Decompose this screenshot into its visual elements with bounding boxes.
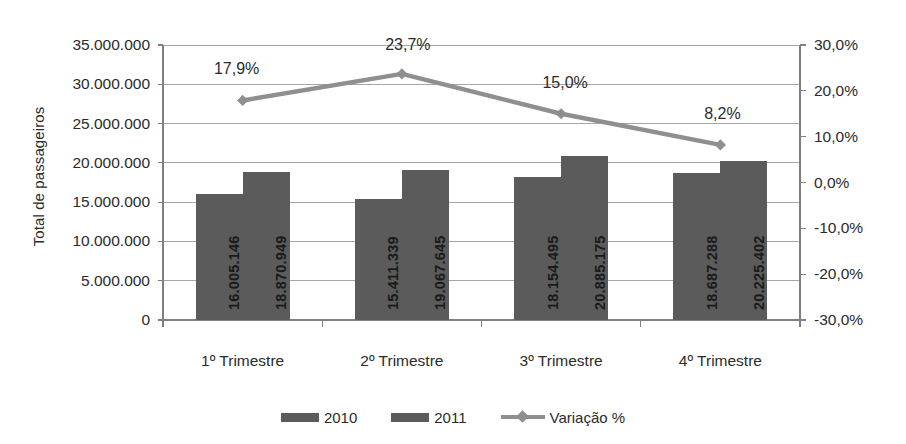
x-axis-category-label: 4º Trimestre [640,352,800,370]
chart-legend: 20102011Variação % [0,404,906,430]
legend-item[interactable]: 2010 [281,409,357,426]
x-axis-category-label: 3º Trimestre [481,352,641,370]
bar-value-label: 19.067.645 [432,235,448,310]
legend-item-label: 2011 [433,409,466,426]
line-marker-diamond [237,95,248,106]
legend-item[interactable]: 2011 [391,409,466,426]
x-axis-category-label: 2º Trimestre [322,352,482,370]
bar-value-label: 16.005.146 [226,235,242,310]
bar-value-label: 20.225.402 [751,235,767,310]
legend-line-swatch [501,411,545,423]
line-marker-diamond [715,139,726,150]
line-value-label: 17,9% [192,60,282,78]
line-value-label: 23,7% [363,36,453,54]
line-value-label: 15,0% [520,74,610,92]
legend-bar-swatch [391,413,429,422]
bar-value-label: 18.870.949 [273,235,289,310]
legend-item-label: 2010 [323,409,357,426]
bar-value-label: 18.154.495 [545,235,561,310]
legend-bar-swatch [281,413,319,422]
line-value-label: 8,2% [677,105,767,123]
bar-value-label: 20.885.175 [592,235,608,310]
legend-item-label: Variação % [549,409,626,426]
line-marker-diamond [556,108,567,119]
bar-value-label: 18.687.288 [704,235,720,310]
x-axis-category-label: 1º Trimestre [163,352,323,370]
bar-value-label: 15.411.339 [385,236,401,310]
plot-area [0,0,906,444]
legend-item[interactable]: Variação % [501,409,626,426]
line-marker-diamond [396,68,407,79]
chart-container: Total de passageiros 05.000.00010.000.00… [0,0,906,444]
